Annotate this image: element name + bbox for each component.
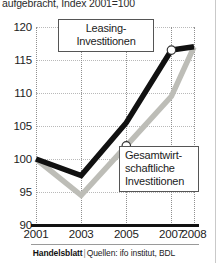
y-tick-label: 95 — [20, 186, 32, 198]
y-tick-label: 100 — [13, 153, 32, 165]
chart-subtitle: aufgebracht, Index 2001=100 — [2, 0, 198, 9]
chart-container: aufgebracht, Index 2001=100 909510010511… — [0, 0, 216, 263]
x-tick-label: 2003 — [69, 228, 94, 240]
y-tick-label: 120 — [13, 21, 32, 33]
footer-credits: Handelsblatt|Quellen: ifo institut, BDL — [0, 248, 208, 258]
vertical-gridline — [194, 27, 195, 225]
y-tick-label: 105 — [13, 120, 32, 132]
callout-gesamt-line1: Gesamtwirt- — [125, 149, 193, 162]
x-tick-label: 2008 — [182, 228, 207, 240]
callout-gesamt-line2: schaftliche — [125, 162, 193, 175]
x-tick-label: 2005 — [114, 228, 139, 240]
y-tick-label: 110 — [14, 87, 32, 99]
footer-separator: | — [84, 248, 86, 258]
callout-leasing-line2: Investitionen — [64, 35, 148, 48]
y-tick-label: 115 — [14, 54, 32, 66]
x-tick-label: 2007 — [159, 228, 184, 240]
footer-divider — [31, 244, 199, 245]
callout-leasing-line1: Leasing- — [64, 22, 148, 35]
x-tick-label: 2001 — [24, 228, 49, 240]
callout-gesamt-line3: Investitionen — [125, 175, 193, 188]
publisher-name: Handelsblatt — [33, 248, 83, 258]
series-lines — [36, 27, 194, 225]
footer-sources: Quellen: ifo institut, BDL — [87, 248, 176, 258]
callout-leasing-investitionen: Leasing- Investitionen — [58, 19, 154, 52]
plot-area: 9095100105110115120 — [36, 27, 194, 225]
data-point-marker — [167, 46, 175, 54]
x-axis-line — [31, 224, 199, 227]
callout-gesamtwirtschaftliche-investitionen: Gesamtwirt- schaftliche Investitionen — [119, 146, 199, 192]
x-axis-labels: 20012003200520072008 — [36, 228, 194, 244]
